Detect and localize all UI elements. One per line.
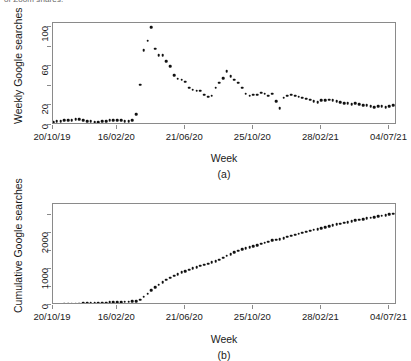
data-point (78, 118, 81, 121)
data-point (388, 105, 391, 108)
x-axis-tick-label: 16/02/20 (98, 131, 135, 142)
data-point (301, 96, 304, 99)
panel-caption-a: (a) (218, 168, 231, 180)
data-point (154, 286, 157, 289)
x-axis-tick (52, 125, 53, 129)
data-point (260, 91, 263, 94)
plot-area-b (52, 203, 396, 304)
data-point (279, 107, 282, 110)
data-point (146, 39, 149, 42)
y-axis-tick-label: 60 (39, 65, 50, 76)
data-point (275, 100, 278, 103)
data-point (237, 82, 240, 85)
data-point (316, 228, 319, 231)
x-axis-tick-label: 25/10/20 (234, 131, 271, 142)
y-axis-tick (47, 214, 51, 215)
data-point (294, 94, 297, 97)
data-point (252, 245, 255, 248)
panel-a: Weekly Google searches Week (a) 02060100… (0, 0, 411, 180)
data-point (139, 83, 142, 86)
data-point (124, 120, 127, 123)
data-point (67, 119, 70, 122)
data-point (165, 279, 168, 282)
data-point (301, 231, 304, 234)
y-axis-tick (47, 46, 51, 47)
data-point (362, 104, 365, 107)
data-point (331, 224, 334, 227)
data-point (256, 244, 259, 247)
x-axis-tick-label: 21/06/20 (166, 131, 203, 142)
data-point (71, 119, 74, 122)
data-point (226, 70, 229, 73)
data-point (169, 65, 172, 68)
data-point (192, 267, 195, 270)
data-point (324, 99, 327, 102)
data-point (97, 121, 100, 123)
data-point (116, 119, 119, 122)
x-axis-tick (184, 305, 185, 309)
data-point (260, 242, 263, 245)
y-axis-label-a: Weekly Google searches (12, 7, 24, 124)
data-point (135, 113, 138, 116)
data-point (244, 92, 247, 95)
data-point (93, 302, 96, 303)
data-point (120, 301, 123, 303)
panel-b: Cumulative Google searches Week (b) 0100… (0, 180, 411, 361)
data-point (392, 104, 395, 107)
x-axis-tick (252, 125, 253, 129)
data-point (112, 119, 115, 122)
x-axis-tick-label: 16/02/20 (98, 311, 135, 322)
data-point (279, 238, 282, 241)
data-point (218, 82, 221, 85)
data-point (358, 103, 361, 106)
data-point (297, 95, 300, 98)
data-point (180, 271, 183, 274)
data-point (222, 77, 225, 80)
x-axis-tick (320, 125, 321, 129)
data-point (373, 106, 376, 109)
data-point (271, 239, 274, 242)
data-point (131, 119, 134, 122)
data-point (124, 300, 127, 303)
data-point (116, 301, 119, 303)
data-point (131, 300, 134, 303)
data-point (271, 92, 274, 95)
data-point (55, 120, 58, 123)
data-point (229, 75, 232, 78)
data-point (282, 96, 285, 99)
data-point (320, 227, 323, 230)
data-point (350, 220, 353, 223)
data-point (263, 241, 266, 244)
data-point (328, 98, 331, 101)
data-point (263, 92, 266, 95)
data-point (358, 218, 361, 221)
data-point (184, 81, 187, 84)
data-point (381, 105, 384, 108)
data-point (176, 78, 179, 81)
plot-area-a (52, 22, 396, 124)
data-point (335, 223, 338, 226)
data-point (108, 301, 111, 303)
x-axis-tick-label: 20/10/19 (34, 131, 71, 142)
data-point (90, 120, 93, 123)
data-point (165, 60, 168, 63)
x-axis-tick (388, 125, 389, 129)
x-axis-tick (52, 305, 53, 309)
data-point (139, 298, 142, 301)
data-point (377, 215, 380, 218)
data-point (384, 214, 387, 217)
data-point (207, 95, 210, 98)
data-point (392, 212, 395, 215)
data-point (180, 79, 183, 82)
data-point (188, 268, 191, 271)
data-point (350, 103, 353, 106)
data-point (210, 94, 213, 97)
data-point (74, 118, 77, 121)
y-axis-label-b: Cumulative Google searches (12, 178, 24, 313)
data-point (316, 101, 319, 104)
data-point (120, 119, 123, 122)
data-point (112, 301, 115, 303)
data-point (290, 234, 293, 237)
data-point (142, 296, 145, 299)
data-point (381, 214, 384, 217)
